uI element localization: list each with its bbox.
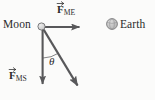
vector-arrow-accent-icon bbox=[9, 67, 17, 71]
vector-arrow-accent-icon bbox=[57, 1, 65, 5]
vector-label-f-me: FME bbox=[57, 4, 75, 16]
f-me-symbol: F bbox=[57, 4, 64, 15]
vector-label-f-ms: FMS bbox=[9, 70, 27, 82]
f-me-subscript: ME bbox=[64, 8, 76, 17]
earth-label: Earth bbox=[120, 19, 145, 31]
moon-label: Moon bbox=[3, 19, 31, 31]
f-ms-symbol: F bbox=[9, 70, 16, 81]
angle-theta-label: θ bbox=[49, 56, 54, 67]
earth-body-icon bbox=[107, 19, 118, 30]
moon-body-icon bbox=[38, 23, 45, 30]
force-diagram: Moon Earth FME FMS θ bbox=[0, 0, 155, 100]
diagram-canvas bbox=[0, 0, 155, 100]
f-ms-subscript: MS bbox=[16, 74, 27, 83]
